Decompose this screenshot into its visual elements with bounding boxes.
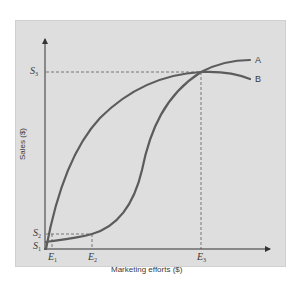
y-axis-title: Sales ($)	[18, 128, 27, 160]
s2-label: S2	[33, 228, 41, 239]
curve-b	[46, 72, 250, 249]
e3-label: E3	[197, 252, 206, 263]
e2-label: E2	[88, 252, 97, 263]
chart-canvas	[0, 0, 299, 298]
s3-label: S3	[30, 66, 38, 77]
x-axis-title: Marketing efforts ($)	[111, 265, 182, 274]
s1-label: S1	[33, 241, 41, 252]
curve-b-label: B	[255, 74, 261, 84]
curve-a-label: A	[255, 55, 261, 65]
e1-label: E1	[48, 252, 57, 263]
